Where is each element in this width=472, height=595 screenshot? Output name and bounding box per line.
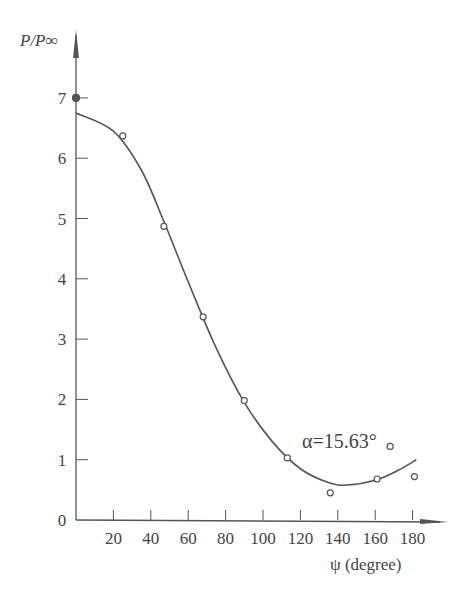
data-point <box>327 490 333 496</box>
x-axis-line <box>76 520 440 522</box>
y-tick-label: 5 <box>58 210 67 229</box>
data-point <box>200 314 206 320</box>
y-axis-arrow-icon <box>73 30 79 58</box>
y-tick-label: 2 <box>58 390 67 409</box>
y-tick-label: 7 <box>58 89 67 108</box>
data-point <box>161 223 167 229</box>
x-tick-label: 80 <box>217 529 234 548</box>
alpha-annotation: α=15.63° <box>302 430 377 452</box>
ticks: 0123456720406080100120140160180 <box>58 89 426 548</box>
x-tick-label: 120 <box>288 529 314 548</box>
x-tick-label: 40 <box>142 529 159 548</box>
data-point <box>73 94 80 101</box>
data-point <box>387 443 393 449</box>
axes <box>73 30 448 524</box>
x-tick-label: 20 <box>105 529 122 548</box>
x-axis-arrow-icon <box>420 519 448 524</box>
y-axis-label: P/P∞ <box>19 31 58 50</box>
x-axis-label: ψ (degree) <box>330 555 402 574</box>
x-tick-label: 100 <box>250 529 276 548</box>
data-point <box>284 455 290 461</box>
y-tick-label: 4 <box>58 270 67 289</box>
y-tick-label: 0 <box>58 511 67 530</box>
y-tick-label: 6 <box>58 149 67 168</box>
data-point <box>411 474 417 480</box>
data-point <box>120 133 126 139</box>
x-tick-label: 160 <box>362 529 388 548</box>
data-point <box>241 398 247 404</box>
y-tick-label: 1 <box>58 451 67 470</box>
y-tick-label: 3 <box>58 330 67 349</box>
x-tick-label: 140 <box>325 529 351 548</box>
chart: 0123456720406080100120140160180 P/P∞ ψ (… <box>0 0 472 595</box>
data-point <box>374 476 380 482</box>
x-tick-label: 180 <box>400 529 426 548</box>
x-tick-label: 60 <box>180 529 197 548</box>
